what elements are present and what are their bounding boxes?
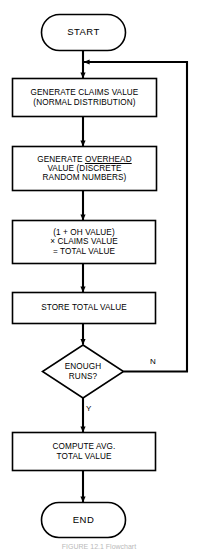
end-terminator-shape [42,503,126,538]
compute-total-box-shape [13,221,156,264]
flowchart-canvas [0,0,198,551]
generate-claims-box-shape [13,79,157,117]
compute-average-box-shape [13,433,156,471]
generate-overhead-box-shape [13,147,157,191]
start-terminator-shape [42,15,126,51]
store-total-box-shape [13,293,156,324]
figure-caption: FIGURE 12.1 Flowchart [0,543,198,551]
flowchart-figure: START GENERATE CLAIMS VALUE (NORMAL DIST… [0,0,198,551]
enough-runs-diamond-shape [43,345,124,398]
